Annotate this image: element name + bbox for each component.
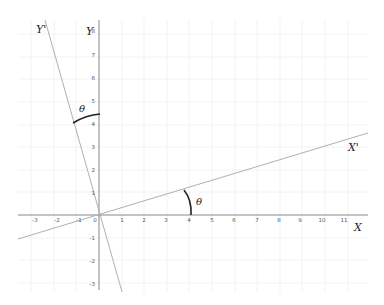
- svg-text:7: 7: [255, 217, 259, 223]
- svg-text:-3: -3: [32, 217, 38, 223]
- svg-text:3: 3: [92, 144, 96, 150]
- rotated-y-axis-label: Y': [36, 23, 46, 36]
- svg-text:7: 7: [92, 52, 96, 58]
- svg-text:10: 10: [319, 217, 326, 223]
- angle-arc-y: [73, 114, 100, 123]
- svg-text:8: 8: [277, 217, 281, 223]
- svg-text:6: 6: [232, 217, 236, 223]
- svg-text:5: 5: [210, 217, 214, 223]
- x-axis-label: X: [353, 221, 363, 234]
- svg-text:0: 0: [93, 217, 97, 223]
- svg-text:-3: -3: [90, 281, 96, 287]
- svg-text:-1: -1: [76, 217, 81, 223]
- svg-text:2: 2: [142, 217, 146, 223]
- svg-text:1: 1: [120, 217, 124, 223]
- rotated-x-axis-label: X': [347, 141, 359, 154]
- svg-text:4: 4: [187, 217, 191, 223]
- svg-text:9: 9: [298, 217, 302, 223]
- svg-text:5: 5: [92, 98, 96, 104]
- angle-label-y: θ: [79, 103, 85, 114]
- svg-text:11: 11: [341, 217, 348, 223]
- rotated-axes-diagram: -3 -2 -1 0 1 2 3 4 5 6 7 8 9 10 11 8 7 6…: [0, 0, 384, 305]
- diagram-canvas: -3 -2 -1 0 1 2 3 4 5 6 7 8 9 10 11 8 7 6…: [0, 0, 384, 305]
- svg-text:4: 4: [92, 121, 96, 127]
- angle-label-x: θ: [196, 196, 202, 207]
- rotated-x-axis: [18, 133, 368, 239]
- rotated-y-axis: [45, 20, 122, 292]
- grid: [18, 20, 368, 292]
- svg-text:-2: -2: [90, 258, 95, 264]
- svg-text:-2: -2: [54, 217, 59, 223]
- svg-text:-1: -1: [90, 235, 95, 241]
- svg-text:6: 6: [92, 75, 96, 81]
- svg-text:1: 1: [92, 190, 96, 196]
- svg-text:2: 2: [92, 167, 96, 173]
- x-tick-labels: -3 -2 -1 0 1 2 3 4 5 6 7 8 9 10 11: [32, 217, 347, 223]
- y-tick-labels: 8 7 6 5 4 3 2 1 -1 -2 -3: [90, 28, 96, 287]
- svg-text:3: 3: [164, 217, 168, 223]
- angle-arc-x: [184, 190, 191, 215]
